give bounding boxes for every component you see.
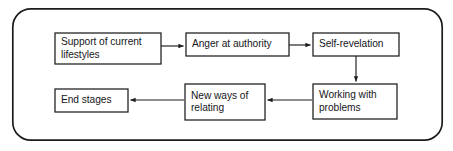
node-box-anger-at-authority (186, 33, 289, 56)
node-box-new-ways-of-relating (185, 84, 265, 120)
diagram-canvas (0, 0, 453, 151)
node-box-self-revelation (313, 33, 399, 56)
node-box-end-stages (55, 89, 128, 112)
flow-diagram: Support of current lifestyles Anger at a… (0, 0, 453, 151)
node-box-support-of-current-lifestyles (55, 33, 161, 64)
node-box-working-with-problems (313, 84, 397, 119)
